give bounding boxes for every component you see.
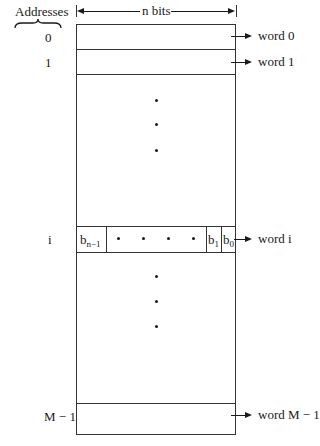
- addresses-brace-icon: [14, 19, 62, 29]
- word-i-arrow-icon: [245, 236, 252, 242]
- word-0-arrow-icon: [245, 33, 252, 39]
- ellipsis-dot: [155, 275, 158, 278]
- bit-divider-msb: [106, 226, 107, 252]
- bit-ellipsis-dot: [192, 237, 195, 240]
- addresses-label: Addresses: [15, 5, 68, 18]
- row-divider-1-gap: [76, 74, 236, 75]
- bit-b1: b1: [208, 233, 219, 251]
- bit-ellipsis-dot: [167, 237, 170, 240]
- row-divider-gap-i: [76, 226, 236, 227]
- bit-ellipsis-dot: [142, 237, 145, 240]
- width-arrow-right-icon: [228, 8, 235, 14]
- word-last-label: word M − 1: [258, 408, 320, 421]
- word-1-arrow-icon: [245, 59, 252, 65]
- width-line-left: [80, 11, 140, 12]
- row-divider-i-gap: [76, 252, 236, 253]
- address-0: 0: [45, 31, 52, 44]
- word-last-arrow-icon: [245, 412, 252, 418]
- ellipsis-dot: [155, 123, 158, 126]
- word-i-label: word i: [258, 232, 292, 245]
- row-divider-0-1: [76, 49, 236, 50]
- bit-divider-b0: [221, 226, 222, 252]
- bit-ellipsis-dot: [117, 237, 120, 240]
- ellipsis-dot: [155, 149, 158, 152]
- word-0-label: word 0: [258, 29, 294, 42]
- ellipsis-dot: [155, 300, 158, 303]
- width-label: n bits: [142, 4, 171, 17]
- address-last: M − 1: [44, 410, 76, 423]
- bit-divider-b1: [206, 226, 207, 252]
- bit-msb: bn−1: [80, 233, 101, 251]
- address-1: 1: [45, 56, 52, 69]
- row-divider-gap-last: [76, 403, 236, 404]
- width-line-right: [171, 11, 231, 12]
- memory-array: [76, 24, 236, 435]
- width-tick-right: [236, 5, 237, 17]
- ellipsis-dot: [155, 99, 158, 102]
- ellipsis-dot: [155, 325, 158, 328]
- bit-b0: b0: [223, 233, 234, 251]
- address-i: i: [48, 233, 52, 246]
- word-1-label: word 1: [258, 55, 294, 68]
